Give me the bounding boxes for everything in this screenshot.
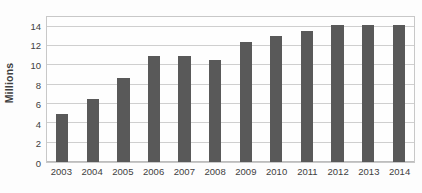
x-axis-tick-label: 2007 <box>169 166 200 177</box>
bar[interactable] <box>178 56 190 162</box>
bar-slot <box>200 17 231 162</box>
x-axis-tick-label: 2014 <box>384 166 415 177</box>
bar-slot <box>108 17 139 162</box>
x-axis-tick-label: 2005 <box>108 166 139 177</box>
x-axis-tick-label: 2004 <box>77 166 108 177</box>
x-axis-tick-label: 2010 <box>261 166 292 177</box>
bar[interactable] <box>240 42 252 162</box>
y-axis-tick-label: 0 <box>36 158 41 169</box>
bars-container <box>47 17 414 162</box>
y-axis-tick-label: 14 <box>30 20 41 31</box>
bar[interactable] <box>301 31 313 162</box>
bar-slot <box>230 17 261 162</box>
y-axis-tick-label: 10 <box>30 60 41 71</box>
bar[interactable] <box>56 114 68 162</box>
y-axis-tick-labels: 02468101214 <box>18 16 44 163</box>
bar[interactable] <box>270 36 282 162</box>
bar[interactable] <box>148 56 160 162</box>
bar-slot <box>322 17 353 162</box>
bar[interactable] <box>362 25 374 162</box>
bar-slot <box>353 17 384 162</box>
bar-slot <box>139 17 170 162</box>
bar[interactable] <box>87 99 99 162</box>
bar[interactable] <box>209 60 221 162</box>
bar-slot <box>47 17 78 162</box>
bar-slot <box>261 17 292 162</box>
y-axis-title-label: Millions <box>3 62 15 103</box>
bar-slot <box>169 17 200 162</box>
x-axis-tick-label: 2013 <box>354 166 385 177</box>
bar-slot <box>78 17 109 162</box>
bar-slot <box>292 17 323 162</box>
plot-area <box>46 16 415 163</box>
y-axis-tick-label: 4 <box>36 118 41 129</box>
x-axis-tick-label: 2012 <box>323 166 354 177</box>
bar-slot <box>383 17 414 162</box>
bar[interactable] <box>393 25 405 162</box>
y-axis-title: Millions <box>0 0 18 165</box>
y-axis-tick-label: 6 <box>36 99 41 110</box>
y-axis-tick-label: 2 <box>36 138 41 149</box>
y-axis-tick-label: 12 <box>30 40 41 51</box>
y-axis-tick-label: 8 <box>36 79 41 90</box>
x-axis-tick-label: 2008 <box>200 166 231 177</box>
x-axis-tick-label: 2009 <box>231 166 262 177</box>
x-axis-tick-label: 2003 <box>46 166 77 177</box>
bar-chart: Millions 02468101214 2003200420052006200… <box>0 0 422 193</box>
bar[interactable] <box>117 78 129 162</box>
x-axis-tick-label: 2006 <box>138 166 169 177</box>
x-axis-tick-labels: 2003200420052006200720082009201020112012… <box>46 166 415 177</box>
x-axis-tick-label: 2011 <box>292 166 323 177</box>
bar[interactable] <box>331 25 343 162</box>
